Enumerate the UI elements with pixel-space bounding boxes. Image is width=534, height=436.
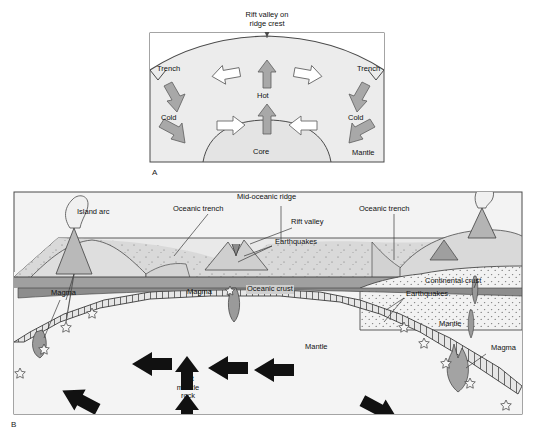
label-magma-ridge: Magma xyxy=(187,288,212,297)
panel-letter-b: B xyxy=(11,420,16,429)
label-cold-right: Cold xyxy=(348,114,363,123)
panel-b-svg xyxy=(0,182,534,436)
label-magma-right: Magma xyxy=(491,344,516,353)
label-trench-right: Trench xyxy=(357,65,380,74)
panel-a-convection: Rift valley onridge crest Trench Trench … xyxy=(0,0,534,182)
label-mantle-center: Mantle xyxy=(305,343,328,352)
label-oceanic-crust: Oceanic crust xyxy=(246,285,294,294)
label-earthquakes-subduction: Earthquakes xyxy=(406,290,448,299)
label-magma-left: Magma xyxy=(51,289,76,298)
label-hot-mantle-rock: Hotmantlerock xyxy=(167,375,209,401)
label-cold-left: Cold xyxy=(161,114,176,123)
label-mid-oceanic-ridge: Mid-oceanic ridge xyxy=(237,193,296,202)
label-core: Core xyxy=(253,148,269,157)
label-trench-left: Trench xyxy=(157,65,180,74)
label-mantle-panel-a: Mantle xyxy=(352,149,375,158)
label-oceanic-trench-right: Oceanic trench xyxy=(359,205,409,214)
label-continental-crust: Continental crust xyxy=(425,277,481,286)
label-mantle-right: Mantle xyxy=(439,320,462,329)
label-island-arc: Island arc xyxy=(77,208,110,217)
label-hot: Hot xyxy=(257,92,269,101)
flow-arrow-right-4 xyxy=(411,424,458,436)
label-rift-valley: Rift valley xyxy=(291,218,324,227)
label-rift-valley-ridge-crest: Rift valley onridge crest xyxy=(227,11,307,28)
panel-b-plate-tectonics: Island arc Oceanic trench Mid-oceanic ri… xyxy=(0,182,534,436)
label-oceanic-trench-left: Oceanic trench xyxy=(173,205,223,214)
label-earthquakes-ridge: Earthquakes xyxy=(275,238,317,247)
panel-letter-a: A xyxy=(152,168,157,177)
